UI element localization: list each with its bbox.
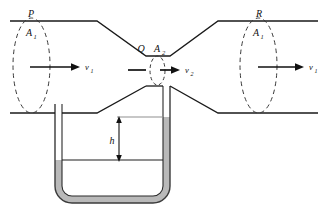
label-velocity-throat-group: v 2 xyxy=(185,65,194,77)
label-area-left: A xyxy=(25,27,33,38)
label-area-right-subscript: 1 xyxy=(260,33,263,40)
label-area-left-subscript: 1 xyxy=(33,33,36,40)
label-area-right: A xyxy=(252,27,260,38)
velocity-arrow-left xyxy=(30,63,80,71)
velocity-arrow-right xyxy=(258,63,304,71)
label-area-throat-subscript: 2 xyxy=(162,49,166,56)
label-velocity-left-group: v 1 xyxy=(85,62,94,74)
label-height-h: h xyxy=(110,135,115,146)
label-velocity-left: v xyxy=(85,62,89,72)
pipe-bottom-wall-taper-out xyxy=(170,86,318,113)
label-area-throat: A xyxy=(153,43,161,54)
label-point-q: Q xyxy=(137,43,145,54)
pipe-bottom-wall-taper-in xyxy=(62,86,146,113)
label-velocity-right-group: v 1 xyxy=(309,62,318,74)
label-velocity-throat: v xyxy=(185,65,189,75)
venturi-meter-figure: P A 1 Q A 2 R A 1 v 1 v 2 v 1 h xyxy=(0,0,327,208)
label-velocity-right-subscript: 1 xyxy=(315,68,318,74)
label-velocity-left-subscript: 1 xyxy=(91,68,94,74)
label-point-p: P xyxy=(27,8,34,19)
label-point-r: R xyxy=(255,8,262,19)
label-area-right-group: A 1 xyxy=(252,27,264,40)
velocity-arrow-throat xyxy=(128,66,180,74)
label-velocity-right: v xyxy=(309,62,313,72)
label-area-throat-group: A 2 xyxy=(153,43,166,56)
label-velocity-throat-subscript: 2 xyxy=(191,71,194,77)
height-dimension xyxy=(116,116,122,162)
label-area-left-group: A 1 xyxy=(25,27,37,40)
